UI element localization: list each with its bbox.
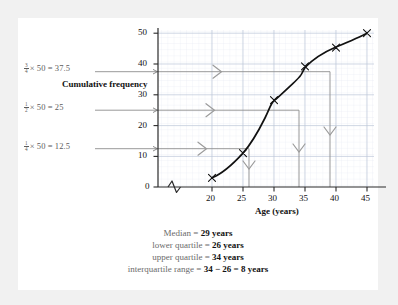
lower-quartile-equation: 1 4 × 50 = 12.5 [24, 141, 70, 153]
summary-label-median: Median [164, 228, 192, 238]
fraction-one-half: 1 2 [24, 102, 29, 113]
summary-value-iqr: 34 − 26 = 8 years [204, 264, 269, 274]
x-tick-20: 20 [206, 193, 215, 203]
x-tick-25: 25 [237, 193, 246, 203]
fraction-three-quarters: 3 4 [24, 63, 29, 74]
x-tick-40: 40 [330, 193, 339, 203]
summary-row-median: Median = 29 years [18, 228, 378, 240]
summary-eq-iqr: = [196, 264, 201, 274]
summary-row-upper-quartile: upper quartile = 34 years [18, 252, 378, 264]
y-tick-0: 0 [145, 181, 150, 191]
summary-block: Median = 29 years lower quartile = 26 ye… [18, 228, 378, 276]
x-tick-30: 30 [268, 193, 277, 203]
upper-quartile-equation: 3 4 × 50 = 37.5 [24, 63, 70, 75]
summary-row-iqr: interquartile range = 34 − 26 = 8 years [18, 264, 378, 276]
summary-value-upper-quartile: 34 years [212, 252, 244, 262]
summary-eq-lower-quartile: = [205, 240, 210, 250]
summary-value-lower-quartile: 26 years [212, 240, 244, 250]
x-tick-35: 35 [299, 193, 308, 203]
summary-value-median: 29 years [201, 228, 233, 238]
plot-grid [158, 30, 374, 187]
summary-eq-upper-quartile: = [205, 252, 210, 262]
y-tick-30: 30 [138, 89, 147, 99]
summary-label-iqr: interquartile range [128, 264, 194, 274]
y-tick-10: 10 [138, 150, 147, 160]
x-axis-ticks [212, 187, 367, 192]
summary-eq-median: = [193, 228, 198, 238]
y-tick-40: 40 [138, 58, 147, 68]
x-axis-title: Age (years) [255, 206, 299, 216]
upper-quartile-equation-text: × 50 = 37.5 [30, 63, 70, 73]
lower-quartile-equation-text: × 50 = 12.5 [30, 141, 70, 151]
summary-row-lower-quartile: lower quartile = 26 years [18, 240, 378, 252]
summary-label-lower-quartile: lower quartile [152, 240, 202, 250]
figure-container: 3 4 × 50 = 37.5 1 2 × 50 = 25 1 4 × 50 =… [0, 0, 398, 305]
y-tick-20: 20 [138, 120, 147, 130]
y-axis-title: Cumulative frequency [62, 79, 144, 89]
y-tick-50: 50 [138, 27, 147, 37]
median-equation-text: × 50 = 25 [30, 102, 64, 112]
x-tick-45: 45 [361, 193, 370, 203]
summary-label-upper-quartile: upper quartile [152, 252, 202, 262]
median-equation: 1 2 × 50 = 25 [24, 102, 64, 114]
fraction-one-quarter: 1 4 [24, 141, 29, 152]
